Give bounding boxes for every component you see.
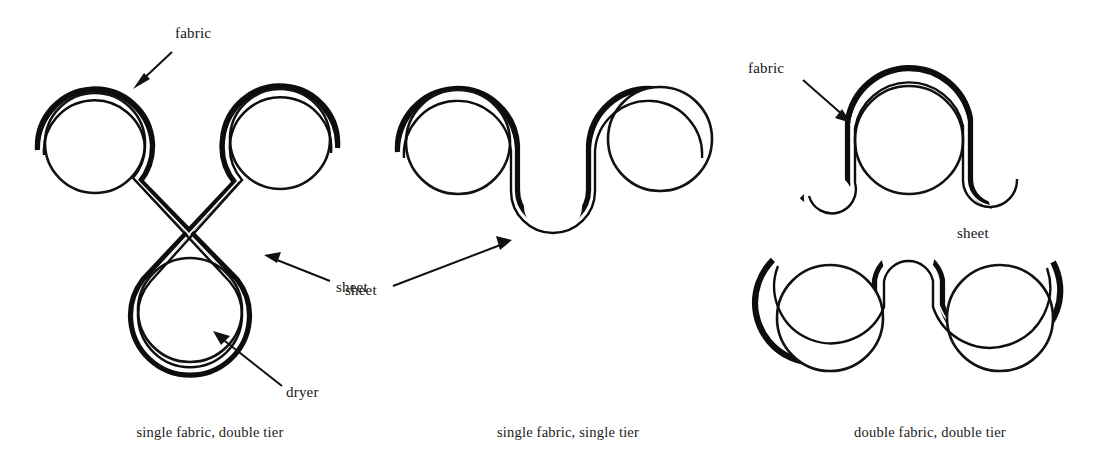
dryer-cylinder-top — [855, 86, 963, 194]
panel-caption-double-fabric-double-tier: double fabric, double tier — [854, 424, 1006, 440]
turning-roll-bottom — [525, 177, 581, 233]
annotation-label-fabric: fabric — [748, 60, 784, 76]
panel-caption-single-fabric-double-tier: single fabric, double tier — [137, 424, 284, 440]
annotation-label-fabric: fabric — [175, 25, 211, 41]
annotation-label-sheet: sheet — [957, 225, 989, 241]
annotation-label-dryer: dryer — [286, 384, 319, 400]
diagram-canvas: fabric sheet dryer single fabric, double… — [0, 0, 1103, 467]
leader-line-sheet — [393, 244, 503, 286]
dryer-cylinder-left — [406, 90, 510, 194]
annotation-label-sheet: sheet — [345, 282, 377, 298]
dryer-cylinder-bottom — [138, 258, 242, 362]
leader-line-sheet — [272, 258, 330, 281]
dryer-cylinder-bottom-left — [777, 265, 883, 371]
annotation-fabric-panel1: fabric — [133, 25, 211, 89]
annotation-sheet-panel2: sheet — [345, 236, 512, 298]
dryer-cylinder-bottom-right — [947, 265, 1053, 371]
cylinder-group-panel2 — [406, 87, 712, 233]
annotation-fabric-panel3: fabric — [748, 60, 851, 123]
leader-line-fabric — [803, 80, 844, 116]
panel-caption-single-fabric-single-tier: single fabric, single tier — [497, 424, 639, 440]
dryer-cylinder-top-right — [230, 89, 330, 189]
panel-single-fabric-double-tier: fabric sheet dryer single fabric, double… — [38, 25, 369, 440]
annotation-sheet-panel3: sheet — [957, 225, 989, 241]
dryer-cylinder-top-left — [45, 93, 145, 193]
turning-roll-center — [883, 232, 933, 282]
arrow-head-sheet — [496, 236, 512, 250]
cylinder-group-panel3 — [777, 86, 1053, 371]
dryer-section-figure: fabric sheet dryer single fabric, double… — [0, 0, 1103, 467]
panel-single-fabric-single-tier: sheet single fabric, single tier — [345, 87, 712, 440]
panel-double-fabric-double-tier: fabric sheet double fabric, double tier — [748, 60, 1060, 440]
